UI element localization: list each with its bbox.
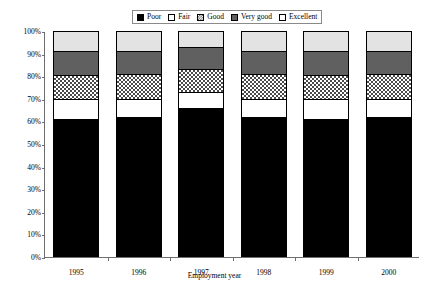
bar-segment-1996-very-good: [116, 51, 162, 74]
bar-segment-2000-very-good: [366, 51, 412, 74]
y-axis-tick-label-50: 50%: [7, 141, 41, 149]
bar-segment-1997-fair: [178, 92, 224, 108]
y-axis-tick-mark-70: [42, 100, 45, 101]
y-axis-tick-mark-0: [42, 258, 45, 259]
bar-segment-1998-very-good: [241, 51, 287, 74]
x-axis-tick-mark-5: [358, 257, 359, 261]
legend-label-excellent: Excellent: [289, 13, 317, 21]
x-axis-tick-mark-3: [233, 257, 234, 261]
y-axis-tick-label-10: 10%: [7, 232, 41, 240]
legend-label-fair: Fair: [178, 13, 190, 21]
legend-swatch-good-icon: [197, 14, 204, 21]
bar-segment-1999-excellent: [303, 31, 349, 51]
stacked-bar-chart: PoorFairGoodVery goodExcellent 0%10%20%3…: [0, 0, 429, 289]
legend-swatch-poor-icon: [137, 14, 144, 21]
legend-label-poor: Poor: [147, 13, 161, 21]
bar-segment-1998-fair: [241, 99, 287, 117]
bar-segment-1995-good: [53, 75, 99, 99]
bar-1995: [53, 32, 99, 257]
plot-area: 0%10%20%30%40%50%60%70%80%90%100%1995199…: [44, 32, 419, 258]
bar-segment-1998-excellent: [241, 31, 287, 51]
y-axis-tick-label-40: 40%: [7, 164, 41, 172]
y-axis-tick-label-100: 100%: [7, 28, 41, 36]
bar-segment-1997-poor: [178, 108, 224, 257]
y-axis-tick-label-30: 30%: [7, 186, 41, 194]
x-axis-tick-mark-1: [108, 257, 109, 261]
legend-swatch-very-good-icon: [231, 14, 238, 21]
bar-segment-2000-excellent: [366, 31, 412, 51]
y-axis-tick-label-70: 70%: [7, 96, 41, 104]
y-axis-tick-mark-90: [42, 55, 45, 56]
legend-entry-poor: Poor: [137, 13, 161, 21]
y-axis-tick-mark-100: [42, 32, 45, 33]
y-axis-tick-label-90: 90%: [7, 51, 41, 59]
bar-segment-1997-good: [178, 69, 224, 92]
bar-segment-1996-good: [116, 74, 162, 99]
bar-segment-1997-excellent: [178, 31, 224, 47]
y-axis-tick-label-0: 0%: [7, 254, 41, 262]
bar-2000: [366, 32, 412, 257]
bar-segment-1995-poor: [53, 119, 99, 257]
y-axis-tick-label-80: 80%: [7, 73, 41, 81]
y-axis-tick-mark-10: [42, 235, 45, 236]
legend-entry-very-good: Very good: [231, 13, 272, 21]
legend-swatch-excellent-icon: [279, 14, 286, 21]
bar-segment-1996-poor: [116, 117, 162, 257]
y-axis-tick-mark-40: [42, 168, 45, 169]
bar-1996: [116, 32, 162, 257]
bar-segment-1995-fair: [53, 99, 99, 119]
y-axis-tick-label-20: 20%: [7, 209, 41, 217]
bar-segment-1996-excellent: [116, 31, 162, 51]
bar-segment-1995-very-good: [53, 51, 99, 75]
bar-1999: [303, 32, 349, 257]
bar-segment-1998-poor: [241, 117, 287, 257]
bar-segment-2000-fair: [366, 99, 412, 117]
bar-segment-1999-good: [303, 75, 349, 99]
bar-1998: [241, 32, 287, 257]
bar-segment-2000-good: [366, 74, 412, 99]
y-axis-tick-mark-60: [42, 122, 45, 123]
y-axis-tick-mark-30: [42, 190, 45, 191]
legend-entry-excellent: Excellent: [279, 13, 317, 21]
bar-segment-1996-fair: [116, 99, 162, 117]
y-axis-tick-mark-50: [42, 145, 45, 146]
bar-segment-1999-very-good: [303, 51, 349, 75]
bar-segment-1997-very-good: [178, 47, 224, 70]
y-axis-tick-mark-80: [42, 77, 45, 78]
legend-label-very-good: Very good: [241, 13, 272, 21]
y-axis-tick-mark-20: [42, 213, 45, 214]
x-axis-tick-mark-4: [295, 257, 296, 261]
legend-label-good: Good: [207, 13, 224, 21]
bar-segment-1999-fair: [303, 99, 349, 119]
x-axis-tick-mark-2: [170, 257, 171, 261]
legend-swatch-fair-icon: [168, 14, 175, 21]
x-axis-title: Employment year: [0, 272, 429, 280]
bar-segment-2000-poor: [366, 117, 412, 257]
bar-segment-1998-good: [241, 74, 287, 99]
y-axis-tick-label-60: 60%: [7, 119, 41, 127]
legend-entry-good: Good: [197, 13, 224, 21]
chart-legend: PoorFairGoodVery goodExcellent: [132, 10, 322, 24]
bar-segment-1999-poor: [303, 119, 349, 257]
legend-entry-fair: Fair: [168, 13, 190, 21]
bar-1997: [178, 32, 224, 257]
bar-segment-1995-excellent: [53, 31, 99, 51]
